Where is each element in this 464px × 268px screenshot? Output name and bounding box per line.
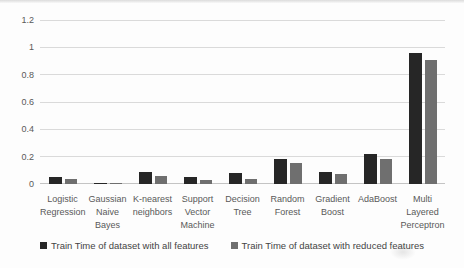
bar-group xyxy=(220,173,265,184)
bar-series-2 xyxy=(65,179,77,184)
bar-group xyxy=(310,172,355,184)
y-tick-label: 0.6 xyxy=(0,97,34,107)
y-tick-label: 0.2 xyxy=(0,152,34,162)
bar-series-1 xyxy=(409,53,422,184)
bar-group xyxy=(355,154,400,184)
bar-series-1 xyxy=(229,173,242,184)
gridline xyxy=(40,102,445,103)
bar-series-1 xyxy=(49,177,62,184)
bar-group xyxy=(400,53,445,184)
gridline xyxy=(40,20,445,21)
y-tick-label: 0.8 xyxy=(0,70,34,80)
x-category-label: Random Forest xyxy=(265,193,310,232)
plot-area xyxy=(40,20,445,184)
y-tick-label: 1 xyxy=(0,42,34,52)
y-tick-label: 0.4 xyxy=(0,124,34,134)
photo-edge-artifact xyxy=(0,0,464,3)
bar-series-2 xyxy=(290,163,302,184)
gridline xyxy=(40,129,445,130)
y-tick-label: 1.2 xyxy=(0,15,34,25)
gridline xyxy=(40,74,445,75)
x-category-label: Support Vector Machine xyxy=(175,193,220,232)
bar-series-1 xyxy=(274,159,287,184)
bar-series-1 xyxy=(94,183,107,184)
bar-series-1 xyxy=(364,154,377,184)
bar-series-2 xyxy=(425,60,437,184)
x-category-label: K-nearest neighbors xyxy=(130,193,175,232)
legend-marker-icon xyxy=(40,242,47,249)
bar-series-2 xyxy=(200,180,212,184)
x-category-label: Logistic Regression xyxy=(40,193,85,232)
bar-group xyxy=(85,183,130,184)
x-category-label: Decision Tree xyxy=(220,193,265,232)
bar-series-2 xyxy=(380,159,392,184)
train-time-bar-chart: 00.20.40.60.811.2 Logistic RegressionGau… xyxy=(0,0,464,268)
bar-series-1 xyxy=(319,172,332,184)
bar-series-2 xyxy=(335,174,347,184)
bar-group xyxy=(40,177,85,184)
x-category-label: AdaBoost xyxy=(355,193,400,232)
bar-series-1 xyxy=(184,177,197,184)
bar-group xyxy=(265,159,310,184)
legend-item: Train Time of dataset with all features xyxy=(40,240,209,251)
x-axis-category-labels: Logistic RegressionGaussian Naive BayesK… xyxy=(40,193,445,232)
bar-series-1 xyxy=(139,172,152,184)
bar-group xyxy=(175,177,220,184)
x-category-label: Gaussian Naive Bayes xyxy=(85,193,130,232)
bar-group xyxy=(130,172,175,184)
gridline xyxy=(40,47,445,48)
y-tick-label: 0 xyxy=(0,179,34,189)
x-category-label: Gradient Boost xyxy=(310,193,355,232)
bar-series-2 xyxy=(155,176,167,184)
photo-smudge-artifact xyxy=(390,244,416,260)
bar-series-2 xyxy=(110,183,122,184)
legend-label: Train Time of dataset with all features xyxy=(51,240,209,251)
x-category-label: Multi Layered Perceptron xyxy=(400,193,445,232)
legend-marker-icon xyxy=(231,242,238,249)
bar-series-2 xyxy=(245,179,257,184)
